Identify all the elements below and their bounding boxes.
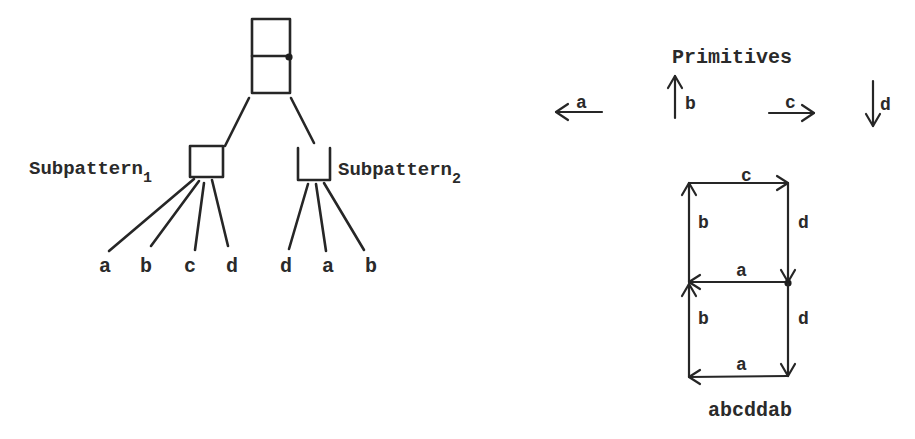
edge-a-middle: a (689, 261, 788, 289)
svg-text:a: a (576, 93, 587, 113)
edge-sub2-a (316, 184, 326, 251)
leaf-b: b (140, 255, 152, 278)
edge-b-upper-left: b (682, 183, 709, 282)
subpattern-1-label: Subpattern1 (29, 158, 152, 187)
leaf-labels: a b c d d a b (99, 255, 377, 278)
arrow-down-icon (866, 81, 880, 126)
edge-sub2-d (289, 184, 308, 249)
svg-text:d: d (798, 309, 809, 329)
primitive-b: b (668, 76, 696, 118)
primitive-a: a (556, 93, 602, 120)
edge-sub2-b (324, 183, 364, 250)
edge-b-lower-left: b (682, 284, 709, 377)
svg-text:b: b (685, 94, 696, 114)
root-node (252, 19, 293, 93)
edge-a-bottom: a (689, 355, 788, 384)
composed-figure: c b d a b d (682, 166, 809, 422)
connection-dot-icon (285, 53, 292, 60)
primitives-title: Primitives (672, 46, 792, 69)
primitives-legend: Primitives a b c (556, 46, 891, 126)
svg-text:c: c (741, 166, 752, 186)
leaf-a: a (99, 255, 111, 278)
svg-text:d: d (880, 95, 891, 115)
svg-text:d: d (798, 213, 809, 233)
edge-sub1-d (212, 180, 228, 246)
leaf-b: b (365, 255, 377, 278)
svg-text:c: c (785, 93, 796, 113)
subpattern-2-node (298, 148, 330, 180)
leaf-c: c (184, 255, 196, 278)
edge-root-sub1 (225, 98, 249, 146)
leaf-a: a (322, 255, 334, 278)
primitive-d: d (866, 81, 891, 126)
svg-text:a: a (736, 261, 747, 281)
pattern-diagram: Subpattern1 Subpattern2 a b c d d a b Pr… (0, 0, 915, 439)
svg-text:b: b (698, 213, 709, 233)
svg-text:b: b (698, 309, 709, 329)
edge-sub1-a (109, 179, 194, 251)
figure-string: abcddab (708, 399, 792, 422)
edge-sub1-c (195, 183, 204, 250)
edge-sub1-b (151, 181, 199, 246)
subpattern-2-label: Subpattern2 (338, 159, 461, 188)
primitive-c: c (769, 93, 814, 121)
edge-d-lower-right: d (781, 284, 809, 376)
edge-root-sub2 (291, 98, 314, 143)
svg-text:a: a (736, 355, 747, 375)
subpattern-1-node (190, 146, 223, 177)
leaf-d: d (280, 255, 292, 278)
pattern-tree: Subpattern1 Subpattern2 a b c d d a b (29, 19, 461, 278)
leaf-d: d (226, 255, 238, 278)
arrow-up-icon (668, 76, 682, 118)
edge-d-upper-right: d (781, 183, 809, 282)
edge-c-top: c (689, 166, 788, 190)
